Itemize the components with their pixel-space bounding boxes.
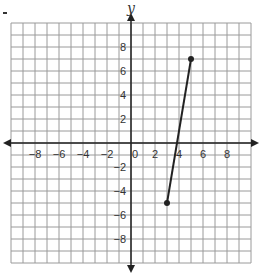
y-tick-label: −6 bbox=[113, 209, 126, 221]
x-tick-label: −6 bbox=[53, 148, 66, 160]
coordinate-plane: −8−6−4−2024688642−2−4−6−8xy bbox=[0, 0, 263, 275]
x-axis-right-arrow-icon bbox=[251, 139, 259, 147]
y-axis-label: y bbox=[126, 0, 136, 16]
endpoint-dot bbox=[164, 200, 170, 206]
x-tick-label: 6 bbox=[200, 148, 206, 160]
y-tick-label: 8 bbox=[120, 41, 126, 53]
x-tick-label: −4 bbox=[77, 148, 90, 160]
x-axis-left-arrow-icon bbox=[3, 139, 11, 147]
x-tick-label: −2 bbox=[101, 148, 114, 160]
y-tick-label: −2 bbox=[113, 161, 126, 173]
y-tick-label: 4 bbox=[120, 89, 126, 101]
y-tick-label: 6 bbox=[120, 65, 126, 77]
y-tick-label: 2 bbox=[120, 113, 126, 125]
y-axis-down-arrow-icon bbox=[127, 265, 135, 273]
y-tick-label: −8 bbox=[113, 233, 126, 245]
x-tick-label: 8 bbox=[224, 148, 230, 160]
x-tick-label: 0 bbox=[132, 148, 138, 160]
endpoint-dot bbox=[188, 56, 194, 62]
x-tick-label: 2 bbox=[152, 148, 158, 160]
y-tick-label: −4 bbox=[113, 185, 126, 197]
x-tick-label: −8 bbox=[29, 148, 42, 160]
